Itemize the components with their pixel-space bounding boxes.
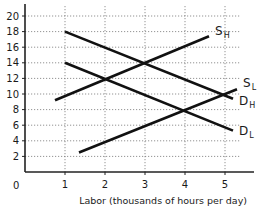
series-lines xyxy=(55,32,237,153)
y-tick-label: 2 xyxy=(13,151,19,162)
y-tick-label: 4 xyxy=(13,135,19,146)
label-s-h: SH xyxy=(215,24,230,40)
x-tick-label: 5 xyxy=(222,179,228,190)
label-d-l: DL xyxy=(239,124,254,140)
y-tick-label: 16 xyxy=(6,42,19,53)
y-tick-label: 8 xyxy=(13,104,19,115)
line-d-h xyxy=(65,32,233,99)
label-d-h: DH xyxy=(239,94,255,110)
y-axis-ticks: 2468101214161820 xyxy=(6,11,25,162)
labor-market-chart: 2468101214161820 12345 SHSLDHDL 0 Labor … xyxy=(0,0,259,210)
x-axis-ticks: 12345 xyxy=(62,172,228,190)
x-tick-label: 1 xyxy=(62,179,68,190)
origin-label: 0 xyxy=(13,180,19,191)
x-tick-label: 4 xyxy=(182,179,188,190)
y-tick-label: 14 xyxy=(6,57,19,68)
y-tick-label: 6 xyxy=(13,120,19,131)
x-tick-label: 3 xyxy=(142,179,148,190)
label-s-l: SL xyxy=(243,76,257,92)
x-tick-label: 2 xyxy=(102,179,108,190)
line-d-l xyxy=(65,63,233,131)
x-axis-title: Labor (thousands of hours per day) xyxy=(79,195,247,206)
y-tick-label: 20 xyxy=(6,11,19,22)
curve-labels: SHSLDHDL xyxy=(215,24,257,141)
y-tick-label: 18 xyxy=(6,26,19,37)
y-tick-label: 12 xyxy=(6,73,19,84)
line-s-l xyxy=(79,89,237,152)
y-tick-label: 10 xyxy=(6,89,19,100)
